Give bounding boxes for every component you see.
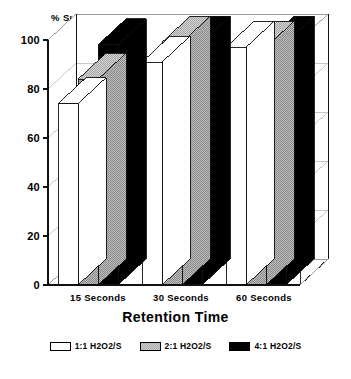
bar-1-0-side xyxy=(162,36,190,285)
legend-item-0: 1:1 H2O2/S xyxy=(50,341,122,351)
legend-label-1: 2:1 H2O2/S xyxy=(165,341,212,351)
legend-label-2: 4:1 H2O2/S xyxy=(254,341,301,351)
legend-swatch-gray-icon xyxy=(140,342,161,351)
legend-swatch-black-icon xyxy=(229,342,250,351)
bar-2-0-side xyxy=(246,21,274,285)
bar-0-0-front xyxy=(58,104,78,285)
chart-legend: 1:1 H2O2/S 2:1 H2O2/S 4:1 H2O2/S xyxy=(0,341,351,351)
bar-0-0-side xyxy=(78,78,106,285)
x-tick-label-2: 60 Seconds xyxy=(236,292,292,303)
legend-label-0: 1:1 H2O2/S xyxy=(75,341,122,351)
x-axis-label: Retention Time xyxy=(0,309,351,325)
legend-item-2: 4:1 H2O2/S xyxy=(229,341,301,351)
legend-swatch-white-icon xyxy=(50,342,71,351)
x-tick-label-1: 30 Seconds xyxy=(153,292,209,303)
legend-item-1: 2:1 H2O2/S xyxy=(140,341,212,351)
x-tick-label-0: 15 Seconds xyxy=(70,292,126,303)
chart-figure: % Sulfide Oxidized 100 80 60 40 20 0 15 … xyxy=(0,0,351,379)
